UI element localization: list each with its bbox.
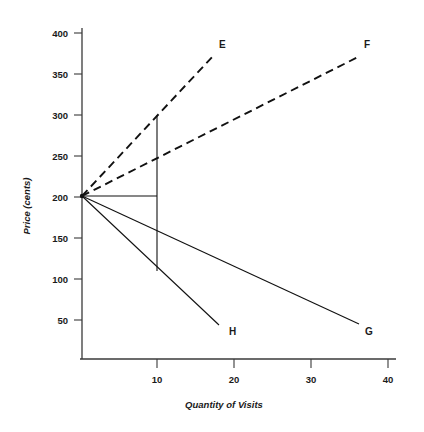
curves-group: [82, 55, 359, 325]
price-quantity-chart: 400 350 300 250 200 150 100 50 10 20 30 …: [0, 0, 424, 432]
x-axis-title: Quantity of Visits: [185, 399, 263, 410]
curve-line-e: [82, 55, 214, 196]
y-tick-label-150: 150: [52, 233, 68, 244]
y-tick-label-200: 200: [52, 192, 68, 203]
x-tick-label-10: 10: [152, 374, 163, 385]
y-tick-marks: [74, 33, 82, 320]
y-tick-label-100: 100: [52, 274, 68, 285]
x-tick-label-40: 40: [383, 374, 394, 385]
curve-labels: E F G H: [219, 39, 373, 337]
curve-label-f: F: [364, 39, 370, 50]
x-tick-label-20: 20: [229, 374, 240, 385]
curve-label-h: H: [229, 326, 236, 337]
y-tick-label-350: 350: [52, 69, 68, 80]
curve-line-f: [82, 57, 358, 196]
y-tick-labels: 400 350 300 250 200 150 100 50: [52, 28, 68, 326]
origin-node: [80, 194, 84, 198]
y-tick-label-300: 300: [52, 110, 68, 121]
y-tick-label-250: 250: [52, 151, 68, 162]
curve-label-e: E: [219, 39, 226, 50]
x-tick-label-30: 30: [306, 374, 317, 385]
y-tick-label-50: 50: [57, 315, 68, 326]
curve-line-h: [82, 196, 219, 325]
x-tick-marks: [157, 359, 388, 368]
y-axis-title: Price (cents): [21, 177, 32, 234]
curve-line-g: [82, 196, 359, 324]
annotation-lines: [82, 115, 157, 271]
x-tick-labels: 10 20 30 40: [152, 374, 394, 385]
curve-label-g: G: [365, 326, 373, 337]
y-tick-label-400: 400: [52, 28, 68, 39]
axes-group: [80, 28, 396, 359]
